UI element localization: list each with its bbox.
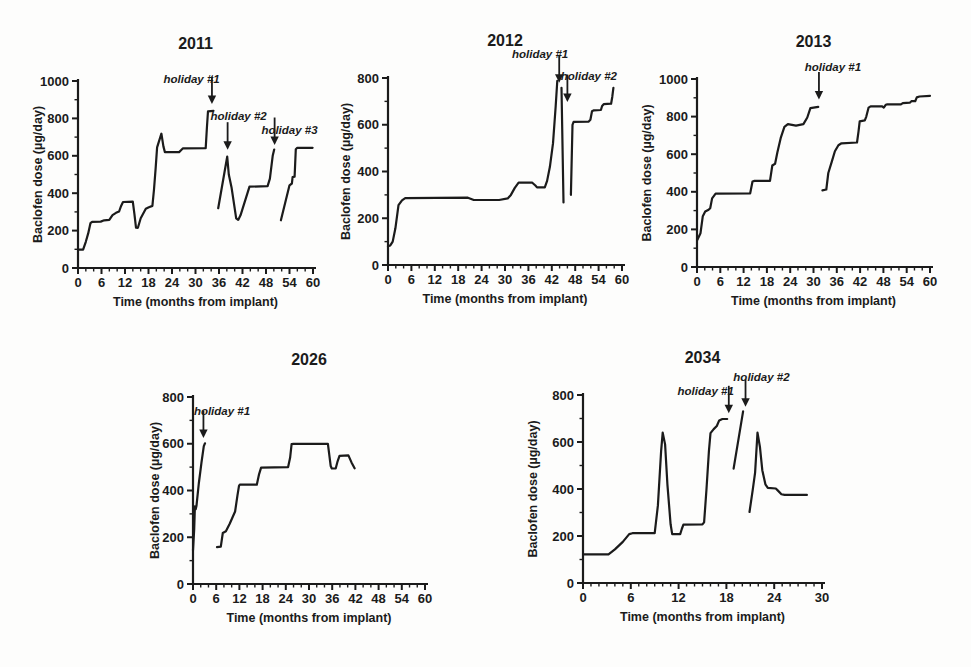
x-tick-label: 18 [760,274,774,289]
y-tick-label: 1000 [659,72,688,87]
x-tick-label: 54 [282,275,297,290]
y-tick-label: 0 [372,258,379,273]
holiday-arrowhead-icon [563,94,571,103]
x-tick-label: 42 [348,591,362,606]
y-tick-label: 600 [552,435,574,450]
dose-line-segment [218,150,274,220]
x-tick-label: 30 [188,275,202,290]
x-tick-label: 30 [498,272,512,287]
holiday-label: holiday #1 [678,385,734,397]
dose-line-segment [193,443,205,550]
dose-line-segment [571,88,614,195]
x-tick-label: 24 [165,275,180,290]
y-tick-label: 200 [552,529,574,544]
y-tick-label: 800 [666,109,688,124]
x-tick-label: 0 [189,591,196,606]
x-tick-label: 54 [395,591,410,606]
chart-title: 2026 [291,351,327,368]
holiday-label: holiday #1 [163,73,219,85]
x-tick-label: 12 [736,274,750,289]
x-tick-label: 24 [783,274,798,289]
y-axis-label: Baclofen dose (µg/day) [339,103,353,240]
x-tick-label: 12 [118,275,132,290]
x-tick-label: 60 [418,591,432,606]
y-tick-label: 600 [357,117,379,132]
x-tick-label: 0 [693,274,700,289]
chart-panel: 0612182430364248546002004006008002012Tim… [339,32,629,306]
x-tick-label: 30 [302,591,316,606]
x-axis-label: Time (months from implant) [226,611,391,625]
x-tick-label: 54 [591,272,606,287]
x-tick-label: 12 [671,590,685,605]
dose-line-segment [388,81,557,247]
chart-title: 2013 [796,33,832,50]
x-tick-label: 36 [830,274,844,289]
x-tick-label: 36 [212,275,226,290]
chart-panel: 0612182430364248546002004006008001000201… [640,33,937,308]
y-tick-label: 400 [552,482,574,497]
x-axis-label: Time (months from implant) [731,294,896,308]
x-tick-label: 12 [232,591,246,606]
holiday-label: holiday #2 [210,110,267,122]
x-tick-label: 48 [259,275,273,290]
holiday-label: holiday #1 [194,405,250,417]
dose-line-segment [217,444,355,547]
x-tick-label: 6 [408,272,415,287]
holiday-label: holiday #2 [561,70,618,82]
x-tick-label: 18 [255,591,269,606]
x-tick-label: 42 [235,275,249,290]
y-axis-label: Baclofen dose (µg/day) [148,422,162,559]
y-tick-label: 800 [357,71,379,86]
x-tick-label: 24 [279,591,294,606]
x-tick-label: 0 [579,590,586,605]
chart-panel: 0612182430364248546002004006008002026Tim… [148,351,432,625]
holiday-arrowhead-icon [725,405,733,414]
x-tick-label: 12 [428,272,442,287]
x-tick-label: 36 [325,591,339,606]
x-tick-label: 48 [371,591,385,606]
x-tick-label: 30 [815,590,829,605]
holiday-label: holiday #3 [261,124,318,136]
y-tick-label: 0 [681,260,688,275]
y-tick-label: 200 [47,223,69,238]
x-tick-label: 30 [806,274,820,289]
dose-line-segment [562,88,564,203]
x-tick-label: 0 [74,275,81,290]
holiday-label: holiday #1 [512,48,568,60]
holiday-arrowhead-icon [208,95,216,104]
y-tick-label: 200 [666,222,688,237]
x-axis-label: Time (months from implant) [113,295,278,309]
x-tick-label: 18 [451,272,465,287]
y-tick-label: 400 [666,184,688,199]
dose-line-segment [697,107,818,240]
dose-line-segment [822,96,930,190]
y-tick-label: 200 [162,530,184,545]
holiday-arrowhead-icon [223,141,231,150]
x-tick-label: 0 [384,272,391,287]
x-tick-label: 54 [899,274,914,289]
x-tick-label: 42 [853,274,867,289]
baclofen-dose-chart-canvas: 0612182430364248546002004006008001000201… [0,0,971,667]
y-tick-label: 0 [177,577,184,592]
x-tick-label: 6 [627,590,634,605]
y-tick-label: 0 [62,261,69,276]
x-tick-label: 60 [306,275,320,290]
x-tick-label: 60 [923,274,937,289]
y-tick-label: 600 [162,436,184,451]
x-tick-label: 18 [141,275,155,290]
x-tick-label: 48 [876,274,890,289]
x-tick-label: 48 [568,272,582,287]
y-axis-label: Baclofen dose (µg/day) [31,106,45,243]
y-tick-label: 800 [552,388,574,403]
holiday-arrowhead-icon [815,91,823,100]
x-tick-label: 60 [615,272,629,287]
y-tick-label: 0 [567,576,574,591]
holiday-label: holiday #1 [805,61,861,73]
holiday-label: holiday #2 [733,371,790,383]
x-tick-label: 24 [767,590,782,605]
x-tick-label: 6 [717,274,724,289]
dose-line-segment [281,148,313,221]
y-tick-label: 400 [357,164,379,179]
x-axis-label: Time (months from implant) [620,610,785,624]
x-tick-label: 6 [98,275,105,290]
